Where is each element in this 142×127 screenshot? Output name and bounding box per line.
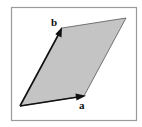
vector-a-label: a bbox=[79, 99, 85, 111]
vector-b-arrowhead-icon bbox=[55, 27, 62, 38]
parallelogram-diagram: a b bbox=[0, 0, 142, 127]
vector-b-label: b bbox=[51, 16, 57, 28]
parallelogram-region bbox=[20, 18, 126, 106]
